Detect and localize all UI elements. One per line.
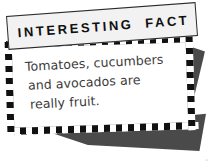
corner-artifact: ∘	[205, 157, 213, 163]
fact-card: Tomatoes, cucumbers and avocados are rea…	[11, 41, 189, 128]
checkered-border-left	[5, 42, 15, 136]
header-title: INTERESTING FACT	[14, 12, 190, 40]
fact-text: Tomatoes, cucumbers and avocados are rea…	[25, 49, 186, 114]
fact-card-illustration: Tomatoes, cucumbers and avocados are rea…	[0, 0, 214, 164]
